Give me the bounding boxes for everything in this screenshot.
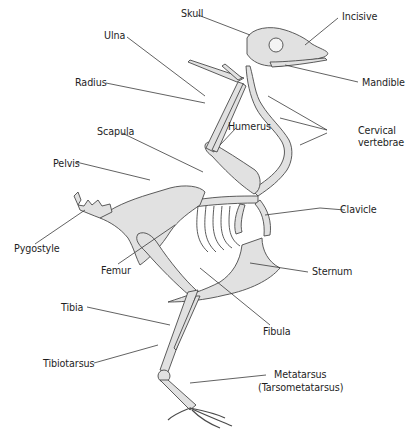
ulna (206, 82, 244, 152)
wing-tip (188, 60, 244, 82)
label-humerus: Humerus (228, 121, 271, 133)
label-ulna: Ulna (104, 30, 125, 42)
label-mandible: Mandible (362, 77, 405, 89)
tibia (160, 290, 198, 372)
metatarsus (160, 380, 196, 410)
clavicle (255, 200, 271, 236)
label-cervical-1: Cervical (358, 125, 396, 137)
label-tibia: Tibia (61, 302, 83, 314)
label-cervical-2: vertebrae (358, 137, 404, 149)
label-skull: Skull (181, 8, 203, 20)
label-tibiotarsus: Tibiotarsus (43, 358, 94, 370)
label-radius: Radius (75, 77, 107, 89)
label-scapula: Scapula (97, 126, 134, 138)
label-pelvis: Pelvis (53, 158, 80, 170)
label-sternum: Sternum (312, 266, 352, 278)
sternum (168, 238, 280, 302)
label-metatarsus-2: (Tarsometatarsus) (258, 382, 343, 394)
label-incisive: Incisive (342, 11, 377, 23)
femur (137, 233, 196, 296)
label-metatarsus-1: Metatarsus (274, 369, 326, 381)
radius (212, 84, 246, 152)
label-pygostyle: Pygostyle (14, 243, 60, 255)
label-femur: Femur (101, 265, 131, 277)
label-clavicle: Clavicle (340, 204, 377, 216)
label-fibula: Fibula (263, 326, 291, 338)
bird-skeleton-diagram: Skull Incisive Ulna Radius Mandible Hume… (0, 0, 411, 429)
